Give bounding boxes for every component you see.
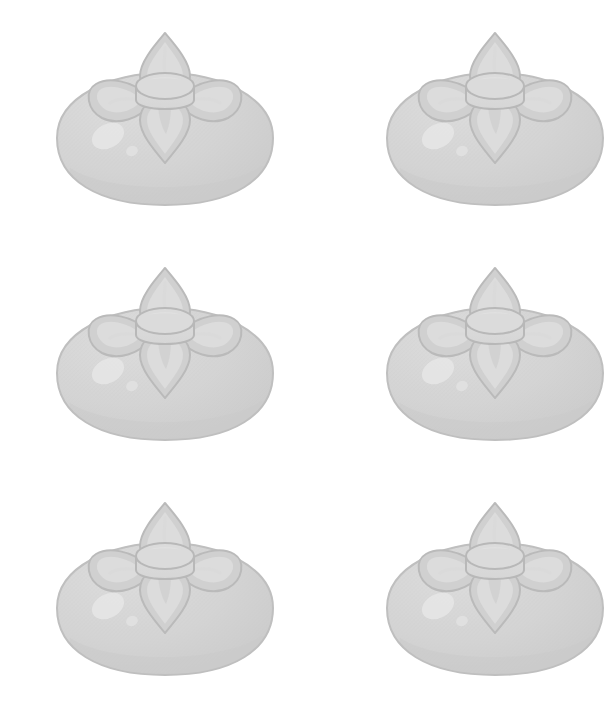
- persimmon-fruit-illustration-4[interactable]: persimmon: [370, 253, 608, 453]
- persimmon-svg: [370, 488, 608, 688]
- persimmon-svg: [370, 253, 608, 453]
- stem-cap: [136, 73, 194, 109]
- stem-cap: [466, 73, 524, 109]
- stem-cap-top: [136, 73, 194, 99]
- persimmon-svg: [40, 253, 290, 453]
- persimmon-fruit-illustration-3[interactable]: persimmon: [40, 253, 290, 453]
- stem-cap-top: [466, 308, 524, 334]
- persimmon-fruit-illustration-5[interactable]: persimmon: [40, 488, 290, 688]
- fruit-grid-cell-5[interactable]: persimmon: [0, 470, 330, 705]
- persimmon-svg: [370, 18, 608, 218]
- stem-cap: [466, 543, 524, 579]
- persimmon-fruit-illustration-1[interactable]: persimmon: [40, 18, 290, 218]
- fruit-grid-cell-4[interactable]: persimmon: [330, 235, 608, 470]
- stem-cap-top: [466, 73, 524, 99]
- stem-cap-top: [136, 308, 194, 334]
- stem-cap: [136, 543, 194, 579]
- stem-cap: [466, 308, 524, 344]
- fruit-grid-cell-2[interactable]: persimmon: [330, 0, 608, 235]
- stem-cap: [136, 308, 194, 344]
- fruit-grid-cell-6[interactable]: persimmon: [330, 470, 608, 705]
- persimmon-svg: [40, 488, 290, 688]
- persimmon-svg: [40, 18, 290, 218]
- fruit-grid-cell-3[interactable]: persimmon: [0, 235, 330, 470]
- fruit-grid-cell-1[interactable]: persimmon: [0, 0, 330, 235]
- persimmon-fruit-illustration-2[interactable]: persimmon: [370, 18, 608, 218]
- stem-cap-top: [136, 543, 194, 569]
- stem-cap-top: [466, 543, 524, 569]
- persimmon-fruit-illustration-6[interactable]: persimmon: [370, 488, 608, 688]
